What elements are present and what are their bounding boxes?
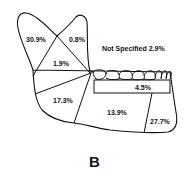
panel-label: B [89, 153, 100, 170]
mandible-outline [17, 13, 176, 133]
label-body: 13.9% [107, 109, 128, 116]
label-condyle: 30.9% [26, 36, 47, 43]
label-not-specified: Not Specified 2.9% [102, 45, 165, 53]
label-alveolar: 4.5% [135, 84, 152, 91]
label-angle: 17.3% [53, 97, 74, 104]
label-symphysis: 27.7% [150, 118, 171, 125]
mandible-diagram: 30.9% 0.8% 1.9% 17.3% 13.9% 4.5% 27.7% N… [0, 0, 188, 180]
label-coronoid: 0.8% [69, 36, 86, 43]
label-ramus: 1.9% [53, 60, 70, 67]
